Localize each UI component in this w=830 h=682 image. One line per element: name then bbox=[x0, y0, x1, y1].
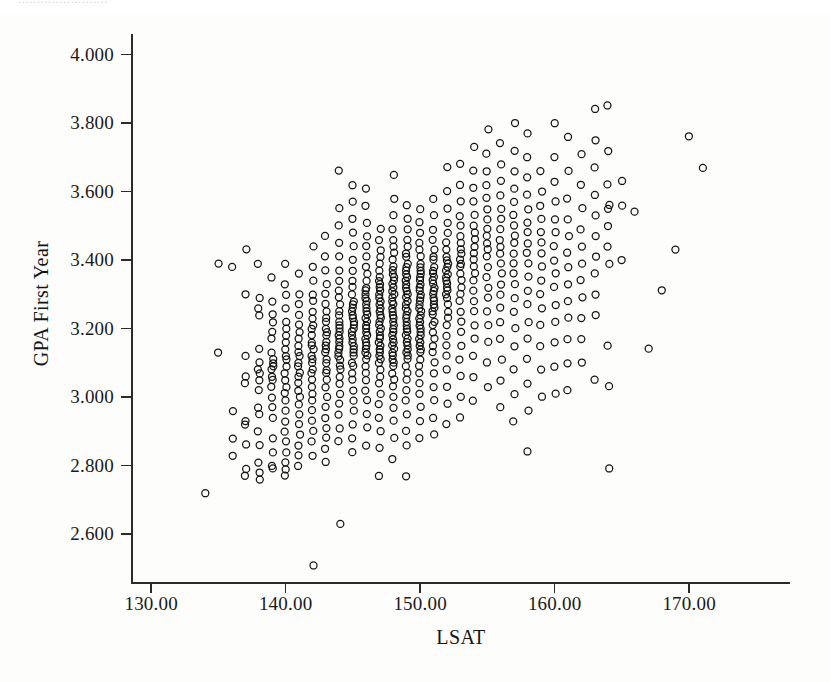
data-point bbox=[485, 126, 492, 133]
data-point bbox=[470, 298, 477, 305]
data-point bbox=[592, 212, 599, 219]
data-point bbox=[377, 247, 384, 254]
data-point bbox=[322, 300, 329, 307]
scatter-plot-figure: ........................ 2.6002.8003.000… bbox=[0, 0, 830, 682]
data-point bbox=[457, 290, 464, 297]
data-point bbox=[471, 322, 478, 329]
data-point bbox=[484, 384, 491, 391]
data-point bbox=[524, 229, 531, 236]
data-point bbox=[229, 452, 236, 459]
data-point bbox=[511, 222, 518, 229]
data-point bbox=[283, 332, 290, 339]
data-points-layer bbox=[131, 34, 790, 582]
data-point bbox=[335, 438, 342, 445]
data-point bbox=[389, 456, 396, 463]
data-point bbox=[431, 431, 438, 438]
data-point bbox=[416, 370, 423, 377]
data-point bbox=[552, 270, 559, 277]
data-point bbox=[631, 208, 638, 215]
data-point bbox=[296, 353, 303, 360]
data-point bbox=[310, 562, 317, 569]
data-point bbox=[470, 374, 477, 381]
data-point bbox=[363, 411, 370, 418]
data-point bbox=[443, 322, 450, 329]
data-point bbox=[269, 404, 276, 411]
data-point bbox=[390, 171, 397, 178]
y-axis-tick-label: 2.600 bbox=[56, 524, 114, 543]
data-point bbox=[416, 219, 423, 226]
data-point bbox=[579, 260, 586, 267]
data-point bbox=[336, 380, 343, 387]
data-point bbox=[364, 397, 371, 404]
data-point bbox=[511, 295, 518, 302]
data-point bbox=[591, 164, 598, 171]
data-point bbox=[524, 219, 531, 226]
data-point bbox=[309, 263, 316, 270]
data-point bbox=[282, 407, 289, 414]
data-point bbox=[335, 411, 342, 418]
data-point bbox=[565, 314, 572, 321]
data-point bbox=[672, 246, 679, 253]
data-point bbox=[619, 177, 626, 184]
data-point bbox=[591, 270, 598, 277]
data-point bbox=[282, 418, 289, 425]
data-point bbox=[377, 366, 384, 373]
data-point bbox=[537, 202, 544, 209]
data-point bbox=[269, 414, 276, 421]
data-point bbox=[484, 225, 491, 232]
data-point bbox=[404, 226, 411, 233]
data-point bbox=[323, 308, 330, 315]
data-point bbox=[444, 219, 451, 226]
data-point bbox=[512, 120, 519, 127]
data-point bbox=[242, 373, 249, 380]
data-point bbox=[376, 380, 383, 387]
data-point bbox=[256, 377, 263, 384]
data-point bbox=[254, 260, 261, 267]
data-point bbox=[565, 264, 572, 271]
data-point bbox=[295, 270, 302, 277]
data-point bbox=[337, 301, 344, 308]
data-point bbox=[524, 191, 531, 198]
data-point bbox=[444, 383, 451, 390]
data-point bbox=[538, 393, 545, 400]
data-point bbox=[551, 120, 558, 127]
data-point bbox=[269, 449, 276, 456]
data-point bbox=[537, 168, 544, 175]
data-point bbox=[281, 370, 288, 377]
data-point bbox=[363, 377, 370, 384]
data-point bbox=[483, 359, 490, 366]
data-point bbox=[295, 401, 302, 408]
data-point bbox=[322, 445, 329, 452]
data-point bbox=[524, 154, 531, 161]
data-point bbox=[281, 281, 288, 288]
y-axis-tick-label: 3.000 bbox=[56, 387, 114, 406]
data-point bbox=[269, 435, 276, 442]
data-point bbox=[443, 352, 450, 359]
data-point bbox=[349, 435, 356, 442]
data-point bbox=[350, 407, 357, 414]
data-point bbox=[389, 383, 396, 390]
data-point bbox=[362, 185, 369, 192]
data-point bbox=[577, 181, 584, 188]
data-point bbox=[538, 239, 545, 246]
data-point bbox=[498, 281, 505, 288]
data-point bbox=[322, 458, 329, 465]
data-point bbox=[296, 411, 303, 418]
data-point bbox=[592, 105, 599, 112]
x-axis-tick bbox=[419, 582, 421, 593]
data-point bbox=[323, 281, 330, 288]
data-point bbox=[403, 387, 410, 394]
x-axis-line bbox=[131, 582, 790, 584]
data-point bbox=[510, 366, 517, 373]
data-point bbox=[336, 239, 343, 246]
data-point bbox=[256, 345, 263, 352]
data-point bbox=[471, 308, 478, 315]
data-point bbox=[431, 397, 438, 404]
data-point bbox=[523, 249, 530, 256]
data-point bbox=[241, 472, 248, 479]
data-point bbox=[243, 465, 250, 472]
y-axis-title: GPA First Year bbox=[30, 189, 53, 419]
data-point bbox=[564, 387, 571, 394]
data-point bbox=[456, 181, 463, 188]
data-point bbox=[430, 195, 437, 202]
